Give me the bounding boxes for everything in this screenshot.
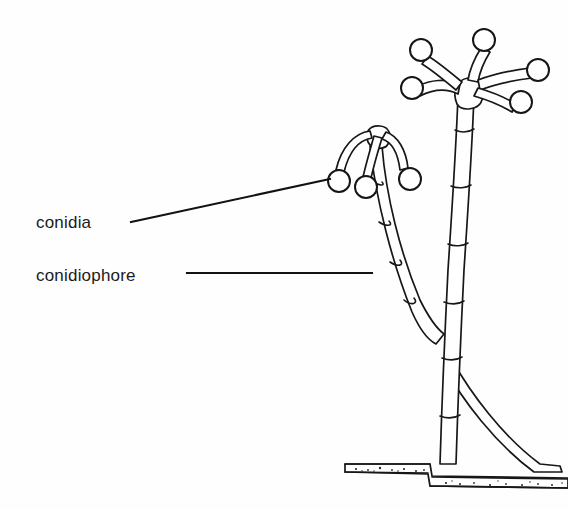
conidium bbox=[328, 170, 350, 192]
label-conidiophore: conidiophore bbox=[36, 266, 136, 285]
conidiophore-illustration: conidia conidiophore bbox=[0, 0, 568, 509]
conidium bbox=[401, 77, 423, 99]
conidium bbox=[410, 39, 432, 61]
tall-conidiophore bbox=[401, 29, 562, 472]
conidium bbox=[473, 29, 495, 51]
conidium bbox=[510, 91, 532, 113]
conidium bbox=[399, 168, 421, 190]
conidia-leader-line bbox=[131, 179, 330, 222]
figure-root: conidia conidiophore bbox=[0, 0, 568, 509]
label-conidia: conidia bbox=[36, 213, 92, 232]
conidium bbox=[527, 59, 549, 81]
short-conidiophore bbox=[328, 126, 444, 344]
conidium bbox=[355, 176, 377, 198]
